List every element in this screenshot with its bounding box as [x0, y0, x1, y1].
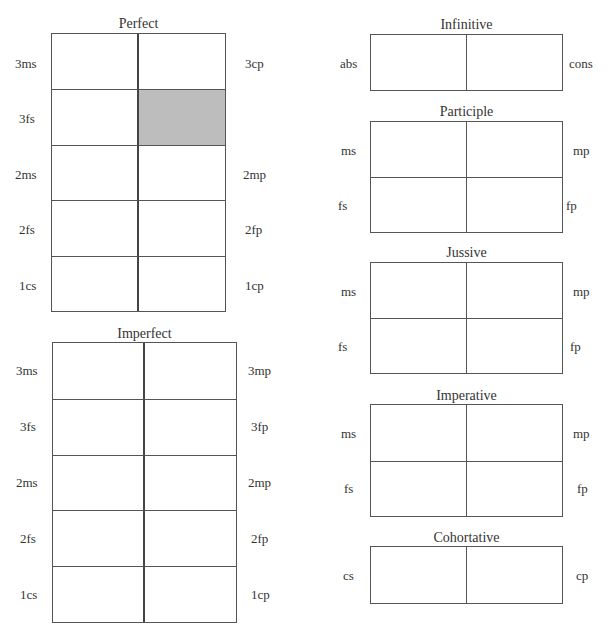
- perfect-cell-3ms[interactable]: [52, 34, 139, 89]
- participle-cell-fp[interactable]: [467, 177, 563, 232]
- imperfect-cell-3ms[interactable]: [53, 343, 145, 399]
- row-label: mp: [573, 427, 590, 441]
- row-label: 2fs: [20, 532, 36, 546]
- imperative-cell-fs[interactable]: [371, 461, 467, 517]
- infinitive-grid: [370, 34, 563, 91]
- jussive-cell-ms[interactable]: [371, 263, 467, 318]
- perfect-title: Perfect: [51, 17, 226, 31]
- row-label: 3ms: [15, 57, 37, 71]
- imperative-paradigm: Imperative: [370, 389, 563, 517]
- perfect-cell-2mp[interactable]: [139, 145, 226, 200]
- participle-cell-mp[interactable]: [467, 122, 563, 177]
- row-label: 2ms: [15, 168, 37, 182]
- participle-title: Participle: [370, 105, 563, 119]
- row-label: cons: [569, 57, 593, 71]
- infinitive-title: Infinitive: [370, 18, 563, 32]
- imperfect-cell-2mp[interactable]: [145, 455, 237, 511]
- jussive-cell-fs[interactable]: [371, 318, 467, 373]
- row-label: 1cs: [20, 588, 37, 602]
- row-label: 2fs: [19, 223, 35, 237]
- row-label: 3fs: [20, 420, 36, 434]
- participle-grid: [370, 121, 563, 233]
- infinitive-paradigm: Infinitive: [370, 18, 563, 91]
- cohortative-title: Cohortative: [370, 531, 563, 545]
- jussive-cell-fp[interactable]: [467, 318, 563, 373]
- perfect-grid: [51, 33, 226, 312]
- imperfect-cell-1cs[interactable]: [53, 566, 145, 622]
- participle-cell-fs[interactable]: [371, 177, 467, 232]
- row-label: fp: [577, 482, 588, 496]
- perfect-cell-2fs[interactable]: [52, 200, 139, 255]
- row-label: cp: [576, 569, 588, 583]
- row-label: 3fp: [251, 420, 268, 434]
- jussive-grid: [370, 262, 563, 374]
- row-label: 1cp: [251, 588, 270, 602]
- imperfect-title: Imperfect: [52, 327, 237, 341]
- row-label: fs: [344, 482, 353, 496]
- jussive-paradigm: Jussive: [370, 246, 563, 374]
- row-label: 1cs: [19, 279, 36, 293]
- imperfect-cell-2fp[interactable]: [145, 510, 237, 566]
- imperfect-grid: [52, 342, 237, 623]
- perfect-cell-3fs[interactable]: [52, 89, 139, 144]
- row-label: 2mp: [248, 476, 271, 490]
- perfect-cell-1cs[interactable]: [52, 256, 139, 311]
- row-label: ms: [341, 427, 356, 441]
- infinitive-cell-abs[interactable]: [371, 35, 467, 90]
- perfect-cell-3cp[interactable]: [139, 34, 226, 89]
- row-label: mp: [573, 144, 590, 158]
- imperfect-cell-2ms[interactable]: [53, 455, 145, 511]
- row-label: ms: [341, 144, 356, 158]
- row-label: 2mp: [243, 168, 266, 182]
- perfect-paradigm: Perfect: [51, 17, 226, 312]
- imperative-title: Imperative: [370, 389, 563, 403]
- row-label: 1cp: [245, 279, 264, 293]
- perfect-cell-3fs-shaded: [139, 89, 226, 144]
- imperfect-cell-3fp[interactable]: [145, 399, 237, 455]
- imperfect-cell-3fs[interactable]: [53, 399, 145, 455]
- row-label: 3fs: [19, 112, 35, 126]
- imperative-cell-fp[interactable]: [467, 461, 563, 517]
- infinitive-cell-cons[interactable]: [467, 35, 563, 90]
- row-label: abs: [340, 57, 357, 71]
- imperfect-cell-2fs[interactable]: [53, 510, 145, 566]
- participle-cell-ms[interactable]: [371, 122, 467, 177]
- imperfect-cell-3mp[interactable]: [145, 343, 237, 399]
- row-label: fp: [570, 340, 581, 354]
- row-label: fs: [338, 199, 347, 213]
- row-label: 3cp: [245, 57, 264, 71]
- row-label: 2ms: [16, 476, 38, 490]
- row-label: fs: [338, 340, 347, 354]
- imperative-cell-ms[interactable]: [371, 405, 467, 461]
- cohortative-cell-cp[interactable]: [467, 547, 563, 603]
- row-label: 3ms: [16, 364, 38, 378]
- perfect-cell-1cp[interactable]: [139, 256, 226, 311]
- imperative-cell-mp[interactable]: [467, 405, 563, 461]
- jussive-cell-mp[interactable]: [467, 263, 563, 318]
- imperative-grid: [370, 404, 563, 517]
- imperfect-cell-1cp[interactable]: [145, 566, 237, 622]
- row-label: 2fp: [251, 532, 268, 546]
- row-label: 3mp: [248, 364, 271, 378]
- perfect-cell-2fp[interactable]: [139, 200, 226, 255]
- cohortative-grid: [370, 546, 563, 604]
- row-label: ms: [341, 285, 356, 299]
- perfect-cell-2ms[interactable]: [52, 145, 139, 200]
- cohortative-paradigm: Cohortative: [370, 531, 563, 604]
- jussive-title: Jussive: [370, 246, 563, 260]
- row-label: 2fp: [245, 223, 262, 237]
- imperfect-paradigm: Imperfect: [52, 327, 237, 623]
- row-label: fp: [566, 199, 577, 213]
- cohortative-cell-cs[interactable]: [371, 547, 467, 603]
- row-label: cs: [343, 569, 354, 583]
- participle-paradigm: Participle: [370, 105, 563, 233]
- row-label: mp: [573, 285, 590, 299]
